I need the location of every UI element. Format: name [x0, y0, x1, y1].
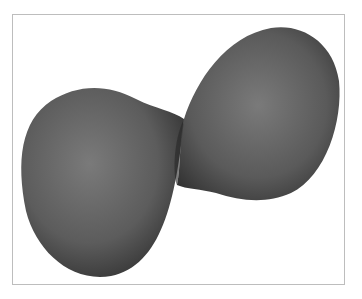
lower-left-lobe — [21, 88, 184, 277]
upper-right-lobe — [177, 27, 340, 200]
dumbbell-surface — [1, 1, 362, 299]
render-frame — [12, 14, 345, 285]
